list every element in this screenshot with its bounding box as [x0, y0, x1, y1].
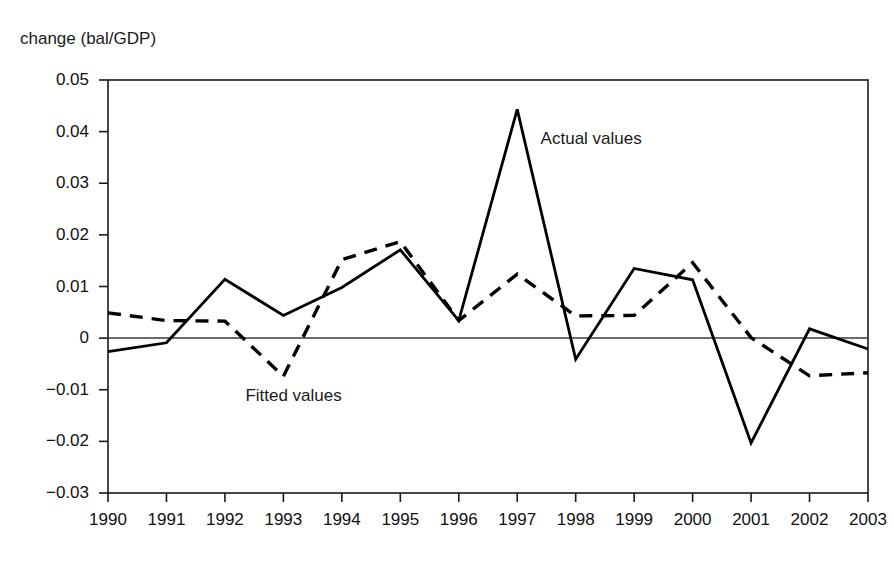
x-tick-label: 1990 [80, 511, 136, 528]
x-tick-label: 1992 [197, 511, 253, 528]
series-line-0 [108, 109, 868, 442]
y-tick-label: −0.02 [21, 432, 89, 449]
y-tick-label: 0.02 [21, 226, 89, 243]
y-tick-label: 0.01 [21, 278, 89, 295]
y-tick-label: 0.05 [21, 71, 89, 88]
x-tick-label: 2002 [782, 511, 838, 528]
series-line-1 [108, 242, 868, 377]
x-tick-label: 1999 [606, 511, 662, 528]
y-tick-label: 0.04 [21, 123, 89, 140]
data-series-group [108, 109, 868, 442]
y-tick-label: −0.03 [21, 484, 89, 501]
x-tick-label: 1995 [372, 511, 428, 528]
x-tick-label: 1994 [314, 511, 370, 528]
x-tick-label: 2003 [840, 511, 894, 528]
x-tick-label: 1996 [431, 511, 487, 528]
series-annotation-0: Actual values [541, 130, 642, 148]
y-tick-label: 0 [21, 329, 89, 346]
x-tick-label: 1993 [255, 511, 311, 528]
plot-frame [108, 80, 868, 493]
plot-area [0, 0, 894, 561]
x-axis-ticks [108, 493, 868, 502]
x-tick-label: 2000 [665, 511, 721, 528]
x-tick-label: 1997 [489, 511, 545, 528]
y-tick-label: −0.01 [21, 381, 89, 398]
series-annotation-1: Fitted values [245, 387, 341, 405]
x-tick-label: 2001 [723, 511, 779, 528]
x-tick-label: 1991 [138, 511, 194, 528]
chart-figure: change (bal/GDP) 0.050.040.030.020.010−0… [0, 0, 894, 561]
y-tick-label: 0.03 [21, 174, 89, 191]
y-axis-ticks [99, 80, 108, 493]
x-tick-label: 1998 [548, 511, 604, 528]
